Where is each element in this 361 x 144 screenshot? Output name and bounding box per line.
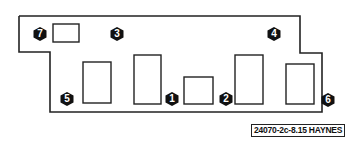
callout-label: 5 [60,92,74,106]
relay-box-5 [286,64,314,104]
figure-caption: 24070-2c-8.15 HAYNES [251,124,345,137]
callout-label: 4 [267,27,281,41]
callout-label: 6 [321,93,335,107]
callout-4: 4 [267,27,281,41]
callout-2: 2 [219,92,233,106]
callout-3: 3 [110,27,124,41]
callout-label: 1 [165,92,179,106]
callout-label: 7 [33,27,47,41]
relay-box-4 [235,55,263,104]
callout-label: 2 [219,92,233,106]
callout-6: 6 [321,93,335,107]
callout-1: 1 [165,92,179,106]
relay-box-2 [134,55,161,104]
callout-5: 5 [60,92,74,106]
callout-7: 7 [33,27,47,41]
callout-label: 3 [110,27,124,41]
fuse-panel-diagram [0,0,361,144]
relay-box-3 [184,77,213,104]
relay-box-1 [83,62,111,103]
relay-box-top-left [53,24,79,42]
